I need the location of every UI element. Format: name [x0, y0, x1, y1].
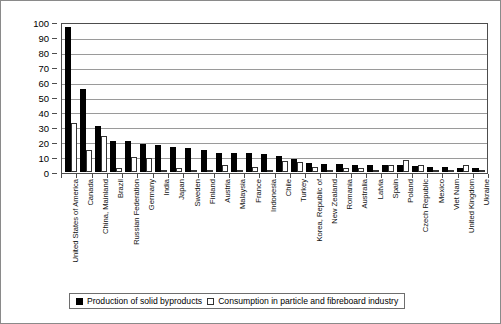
- bar-production: [155, 145, 161, 172]
- x-category-label: New Zealand: [331, 179, 339, 279]
- x-category-label: Latvia: [377, 179, 385, 279]
- bar-group: [335, 25, 350, 172]
- bar-consumption: [358, 168, 364, 172]
- x-tick-mark: [442, 174, 443, 178]
- legend-label: Production of solid byproducts: [87, 296, 202, 306]
- bar-group: [441, 25, 456, 172]
- legend-item: Production of solid byproducts: [76, 296, 202, 306]
- x-tick-mark: [366, 174, 367, 178]
- bar-production: [201, 150, 207, 172]
- y-tick-mark: [52, 83, 57, 84]
- y-tick-label: 100: [33, 19, 49, 28]
- x-tick-mark: [168, 174, 169, 178]
- y-tick-label: 20: [38, 139, 49, 148]
- x-category-label: Ukraine: [483, 179, 491, 279]
- bars-layer: [63, 25, 486, 172]
- bar-consumption: [146, 158, 152, 172]
- y-tick-label: 50: [38, 94, 49, 103]
- x-category-label: Austria: [224, 179, 232, 279]
- bar-consumption: [116, 168, 122, 172]
- bar-consumption: [297, 162, 303, 172]
- x-tick-mark: [183, 174, 184, 178]
- bar-group: [275, 25, 290, 172]
- bar-group: [320, 25, 335, 172]
- bar-group: [139, 25, 154, 172]
- x-axis-ticks: [61, 174, 488, 178]
- bar-group: [184, 25, 199, 172]
- bar-consumption: [479, 170, 485, 172]
- x-category-label: Turkey: [300, 179, 308, 279]
- bar-group: [290, 25, 305, 172]
- bar-group: [305, 25, 320, 172]
- bar-group: [380, 25, 395, 172]
- bar-group: [123, 25, 138, 172]
- bar-consumption: [71, 123, 77, 172]
- y-tick-label: 0: [44, 169, 49, 178]
- x-category-label: Malaysia: [239, 179, 247, 279]
- bar-consumption: [86, 150, 92, 172]
- y-tick-label: 80: [38, 49, 49, 58]
- bar-consumption: [191, 170, 197, 172]
- x-category-label: Canada: [87, 179, 95, 279]
- bar-group: [63, 25, 78, 172]
- bar-group: [426, 25, 441, 172]
- x-category-label: Japan: [178, 179, 186, 279]
- y-axis-tick-labels: 0102030405060708090100: [1, 23, 61, 174]
- bar-group: [244, 25, 259, 172]
- bar-consumption: [343, 168, 349, 172]
- x-category-label: Korea, Republic of: [316, 179, 324, 279]
- x-category-label: Poland: [407, 179, 415, 279]
- x-category-label: Germany: [148, 179, 156, 279]
- x-tick-mark: [412, 174, 413, 178]
- y-tick-mark: [52, 38, 57, 39]
- y-tick-mark: [52, 173, 57, 174]
- y-tick-label: 30: [38, 124, 49, 133]
- y-tick-mark: [52, 53, 57, 54]
- bar-consumption: [388, 165, 394, 172]
- bar-group: [214, 25, 229, 172]
- x-tick-mark: [381, 174, 382, 178]
- x-category-label: Chile: [285, 179, 293, 279]
- y-tick-mark: [52, 143, 57, 144]
- x-category-label: United States of America: [72, 179, 80, 279]
- y-tick-mark: [52, 158, 57, 159]
- x-tick-mark: [153, 174, 154, 178]
- bar-consumption: [312, 167, 318, 172]
- x-tick-mark: [76, 174, 77, 178]
- x-category-label: Spain: [392, 179, 400, 279]
- bar-group: [411, 25, 426, 172]
- bar-consumption: [131, 157, 137, 172]
- plot-area-wrapper: [61, 23, 488, 174]
- x-tick-mark: [92, 174, 93, 178]
- bar-group: [259, 25, 274, 172]
- legend-item: Consumption in particle and fibreboard i…: [207, 296, 398, 306]
- bar-consumption: [161, 170, 167, 172]
- bar-consumption: [237, 170, 243, 172]
- bar-production: [185, 148, 191, 172]
- x-tick-mark: [198, 174, 199, 178]
- x-tick-mark: [275, 174, 276, 178]
- bar-consumption: [463, 165, 469, 172]
- filled-square-icon: [76, 298, 83, 305]
- x-category-label: France: [255, 179, 263, 279]
- plot-area: [61, 23, 488, 174]
- x-tick-mark: [137, 174, 138, 178]
- x-tick-mark: [107, 174, 108, 178]
- bar-consumption: [176, 168, 182, 172]
- bar-consumption: [403, 160, 409, 172]
- bar-group: [456, 25, 471, 172]
- y-tick-mark: [52, 68, 57, 69]
- bar-group: [169, 25, 184, 172]
- bar-group: [199, 25, 214, 172]
- bar-consumption: [282, 161, 288, 172]
- x-tick-mark: [229, 174, 230, 178]
- bar-consumption: [418, 165, 424, 172]
- x-tick-mark: [351, 174, 352, 178]
- y-tick-label: 70: [38, 64, 49, 73]
- x-category-label: Czech Republic: [422, 179, 430, 279]
- x-tick-mark: [259, 174, 260, 178]
- x-tick-mark: [290, 174, 291, 178]
- bar-chart: [million scm] 0102030405060708090100 Uni…: [0, 0, 501, 324]
- bar-group: [365, 25, 380, 172]
- x-category-label: Sweden: [194, 179, 202, 279]
